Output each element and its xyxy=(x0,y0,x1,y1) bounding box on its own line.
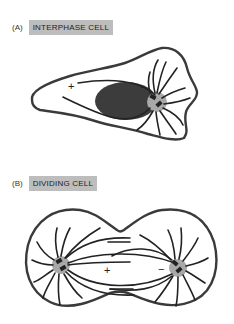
diagram-canvas: + − xyxy=(0,0,234,324)
microtubule xyxy=(162,88,185,98)
microtubule xyxy=(58,274,60,305)
microtubule xyxy=(61,228,70,256)
microtubule xyxy=(156,112,160,135)
microtubule xyxy=(43,273,55,298)
dividing-cell: + − xyxy=(26,210,216,306)
plus-end-label: + xyxy=(68,80,74,92)
microtubule xyxy=(149,72,151,93)
dividing-cell-membrane xyxy=(26,210,216,306)
microtubule xyxy=(186,258,208,266)
minus-end-label: − xyxy=(140,81,146,93)
microtubule xyxy=(179,228,182,259)
microtubule xyxy=(163,108,183,125)
microtubule xyxy=(176,277,178,306)
microtubule xyxy=(164,98,190,104)
microtubule xyxy=(37,242,54,260)
microtubule xyxy=(32,260,53,265)
microtubule xyxy=(157,62,166,93)
microtubule xyxy=(68,270,172,286)
microtubule xyxy=(68,262,130,265)
microtubule xyxy=(34,270,53,282)
microtubule xyxy=(168,230,175,259)
microtubule xyxy=(56,228,58,257)
microtubule xyxy=(186,271,205,283)
interphase-cell: + − xyxy=(32,48,197,140)
plus-end-label: + xyxy=(104,264,110,276)
microtubule xyxy=(183,238,198,261)
microtubule xyxy=(183,275,195,300)
minus-end-label: − xyxy=(158,263,164,275)
